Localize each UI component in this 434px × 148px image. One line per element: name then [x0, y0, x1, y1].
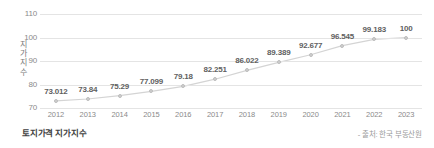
data-point-label: 89.389: [267, 48, 290, 57]
x-tick-label: 2016: [175, 110, 191, 119]
grid-line: [40, 85, 422, 86]
data-point-marker[interactable]: [86, 97, 90, 101]
chart-footer-title: 토지가격 지가지수: [22, 126, 87, 138]
y-tick-label: 90: [3, 57, 37, 65]
x-tick-label: 2018: [239, 110, 255, 119]
data-point-marker[interactable]: [54, 99, 58, 103]
land-price-index-chart: 지가지수 708090100110 73.01273.8475.2977.099…: [0, 0, 434, 148]
y-tick-label: 110: [3, 10, 37, 18]
x-tick-label: 2017: [207, 110, 223, 119]
chart-source-note: - 출처: 한국 부동산원: [358, 128, 422, 139]
data-point-label: 100: [400, 24, 413, 33]
data-point-label: 79.18: [174, 72, 193, 81]
x-tick-label: 2014: [111, 110, 127, 119]
data-point-label: 73.012: [44, 87, 67, 96]
data-point-label: 96.545: [331, 32, 354, 41]
x-tick-label: 2015: [143, 110, 159, 119]
data-point-marker[interactable]: [404, 36, 408, 40]
x-tick-label: 2019: [271, 110, 287, 119]
x-tick-label: 2013: [80, 110, 96, 119]
data-point-marker[interactable]: [309, 53, 313, 57]
x-axis-tick-labels: 2012201320142015201620172018201920202021…: [40, 110, 422, 122]
grid-line: [40, 14, 422, 15]
data-point-label: 73.84: [78, 85, 97, 94]
x-tick-label: 2022: [366, 110, 382, 119]
plot-area: 73.01273.8475.2977.09979.1882.25186.0228…: [40, 14, 422, 108]
x-tick-label: 2012: [48, 110, 64, 119]
data-point-label: 99.183: [363, 25, 386, 34]
y-axis-tick-labels: 708090100110: [0, 14, 37, 108]
y-tick-label: 70: [3, 104, 37, 112]
y-tick-label: 100: [3, 34, 37, 42]
data-point-label: 86.022: [235, 56, 258, 65]
x-tick-label: 2020: [302, 110, 318, 119]
grid-line: [40, 61, 422, 62]
data-point-label: 75.29: [110, 82, 129, 91]
data-point-label: 82.251: [203, 65, 226, 74]
x-tick-label: 2023: [398, 110, 414, 119]
x-tick-label: 2021: [334, 110, 350, 119]
grid-line: [40, 38, 422, 39]
data-point-label: 92.677: [299, 41, 322, 50]
y-tick-label: 80: [3, 81, 37, 89]
grid-line: [40, 108, 422, 109]
data-point-marker[interactable]: [118, 94, 122, 98]
data-point-label: 77.099: [140, 77, 163, 86]
